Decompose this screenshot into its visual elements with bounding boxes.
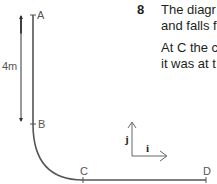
label-B: B (38, 118, 45, 130)
question-line-1: The diagr (161, 2, 216, 18)
question-line-4: it was at t (161, 56, 216, 72)
arrow-down-icon (19, 118, 23, 122)
label-A: A (37, 9, 45, 21)
label-C: C (80, 165, 88, 177)
height-label: 4m (2, 60, 17, 72)
label-D: D (203, 165, 211, 177)
arrow-up-icon (19, 15, 23, 19)
question-line-3: At C the c (161, 40, 217, 56)
question-line-2: and falls f (161, 18, 217, 34)
i-label: i (146, 142, 149, 154)
j-label: j (124, 133, 129, 145)
question-number: 8 (137, 2, 144, 17)
